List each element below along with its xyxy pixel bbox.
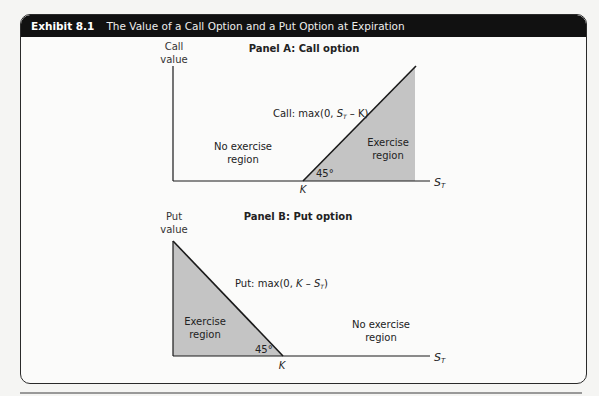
call-no-exercise-1: No exercise — [214, 141, 272, 152]
call-x-label: ST — [434, 176, 446, 190]
put-payoff-label: Put: max(0, K – ST) — [235, 278, 328, 290]
call-no-exercise-2: region — [227, 154, 259, 165]
panel-b-put: Panel B: Put option Put value Put: max(0… — [160, 211, 446, 371]
call-exercise-2: region — [372, 150, 404, 161]
call-payoff-label: Call: max(0, ST – K) — [273, 108, 369, 120]
put-angle-label: 45° — [255, 344, 273, 355]
panel-a-title: Panel A: Call option — [249, 43, 360, 54]
put-exercise-2: region — [189, 329, 221, 340]
put-x-label: ST — [434, 351, 446, 365]
put-y-label-1: Put — [166, 211, 182, 222]
put-no-exercise-1: No exercise — [352, 319, 410, 330]
call-y-label-2: value — [160, 54, 187, 65]
call-angle-label: 45° — [316, 168, 334, 179]
put-y-label-2: value — [160, 224, 187, 235]
panel-b-title: Panel B: Put option — [244, 211, 353, 222]
call-strike-label: K — [300, 184, 308, 195]
panel-a-call: Panel A: Call option Call value Call: ma… — [160, 41, 446, 195]
put-no-exercise-2: region — [365, 332, 397, 343]
call-exercise-1: Exercise — [367, 137, 409, 148]
call-y-label-1: Call — [165, 41, 184, 52]
put-strike-label: K — [279, 360, 287, 371]
put-exercise-1: Exercise — [184, 316, 226, 327]
diagram-canvas: Panel A: Call option Call value Call: ma… — [0, 0, 599, 396]
bottom-rule — [20, 392, 582, 394]
